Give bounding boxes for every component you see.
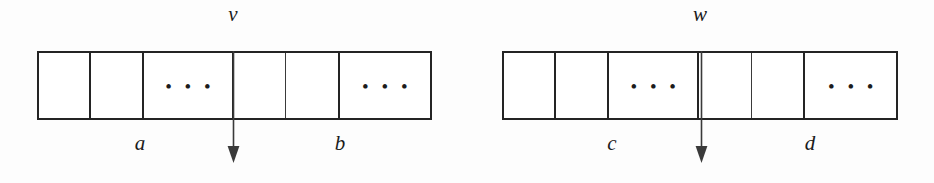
array-top-label-w: w <box>680 2 720 27</box>
ellipsis-glyph: • • • <box>609 76 697 95</box>
array-cell <box>556 53 610 118</box>
array-cell <box>91 53 145 118</box>
ellipsis-glyph: • • • <box>340 76 430 95</box>
array-cell-ellipsis: • • • <box>805 53 896 118</box>
split-arrow-down-icon <box>692 51 712 166</box>
array-bottom-label-c: c <box>592 131 632 156</box>
array-cell-ellipsis: • • • <box>340 53 430 118</box>
ellipsis-glyph: • • • <box>144 76 231 95</box>
array-group-left: v • • • • • • a b <box>0 0 467 183</box>
array-cell <box>504 53 556 118</box>
figure-canvas: v • • • • • • a b w <box>0 0 934 183</box>
array-bottom-label-d: d <box>790 131 830 156</box>
ellipsis-glyph: • • • <box>805 76 896 95</box>
array-cell-ellipsis: • • • <box>144 53 233 118</box>
array-group-right: w • • • • • • c d <box>467 0 934 183</box>
array-bottom-label-a: a <box>120 131 160 156</box>
array-cell <box>39 53 91 118</box>
array-bottom-label-b: b <box>320 131 360 156</box>
array-cell <box>752 53 806 118</box>
array-cell-ellipsis: • • • <box>609 53 699 118</box>
array-cell <box>286 53 340 118</box>
split-arrow-down-icon <box>224 51 244 166</box>
array-top-label-v: v <box>213 2 253 27</box>
